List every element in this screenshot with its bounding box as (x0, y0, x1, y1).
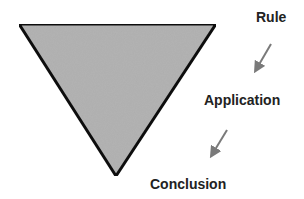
step-label-conclusion: Conclusion (150, 177, 226, 191)
arrow-down-left-icon (213, 130, 227, 153)
inverted-triangle (19, 24, 216, 176)
step-label-rule: Rule (256, 10, 286, 24)
arrow-down-left-icon (257, 44, 271, 68)
step-label-application: Application (204, 93, 280, 107)
